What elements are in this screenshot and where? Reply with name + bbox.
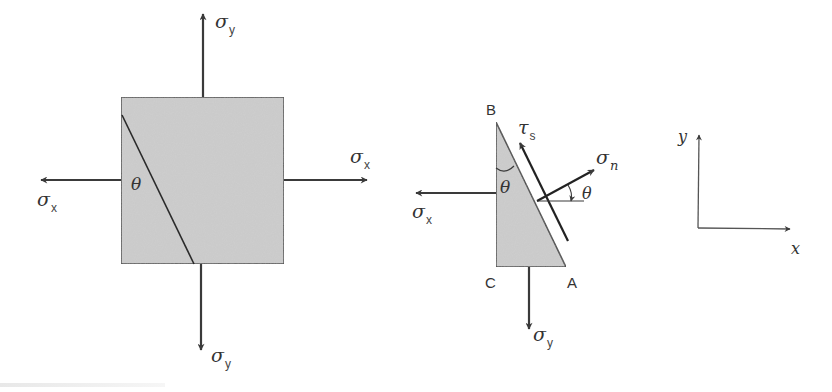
normal-angle-arc bbox=[568, 185, 572, 201]
stress-element: θ σy σy σx σx bbox=[37, 10, 370, 371]
wedge-label-sigma-n: σn bbox=[596, 146, 618, 173]
label-left-sigma-x: σx bbox=[37, 188, 57, 215]
vertex-b-label: B bbox=[486, 101, 496, 118]
free-body-triangle: θ B C A σx σy τs θ σn bbox=[412, 101, 618, 350]
label-right-sigma-x: σx bbox=[350, 145, 370, 172]
y-axis-label: y bbox=[677, 127, 688, 146]
wedge-label-sigma-x: σx bbox=[412, 200, 432, 227]
vertex-a-label: A bbox=[567, 274, 577, 291]
coordinate-axes: y x bbox=[677, 127, 800, 258]
y-axis bbox=[698, 135, 699, 228]
x-axis-label: x bbox=[791, 239, 800, 258]
element-angle-label: θ bbox=[131, 174, 141, 194]
element-square bbox=[121, 97, 284, 264]
triangle-angle-label: θ bbox=[500, 177, 510, 197]
wedge-label-tau-s: τs bbox=[518, 116, 536, 143]
normal-angle-label: θ bbox=[582, 184, 592, 203]
label-bottom-sigma-y: σy bbox=[211, 344, 231, 371]
vertex-c-label: C bbox=[485, 274, 496, 291]
label-top-sigma-y: σy bbox=[215, 10, 235, 37]
stress-diagram: θ σy σy σx σx θ B C A σx bbox=[0, 0, 832, 392]
x-axis bbox=[698, 228, 790, 229]
wedge-label-sigma-y: σy bbox=[533, 323, 553, 350]
bottom-scan-strip bbox=[0, 383, 165, 387]
